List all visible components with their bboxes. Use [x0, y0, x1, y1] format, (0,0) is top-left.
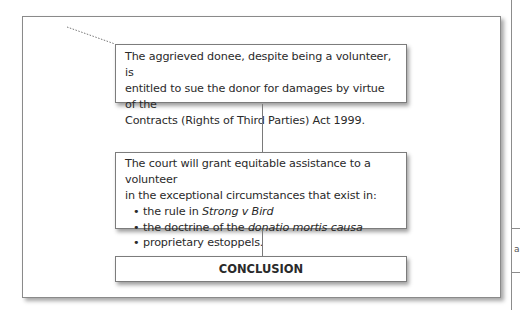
connector-line	[262, 104, 263, 152]
bullet-icon: •	[133, 220, 139, 236]
box-line: The court will grant equitable assistanc…	[125, 156, 398, 188]
case-name: Strong v Bird	[202, 205, 273, 218]
doctrine-name: donatio mortis causa	[248, 221, 363, 234]
flow-box-conclusion: CONCLUSION	[115, 256, 407, 282]
bullet-icon: •	[133, 235, 139, 251]
list-item: • proprietary estoppels.	[133, 235, 398, 251]
flow-box-equitable-assistance: The court will grant equitable assistanc…	[115, 152, 407, 229]
list-item: • the rule in Strong v Bird	[133, 204, 398, 220]
bullet-icon: •	[133, 204, 139, 220]
adjacent-page-edge: a	[511, 0, 520, 310]
box-line: in the exceptional circumstances that ex…	[125, 188, 398, 204]
list-item: • the doctrine of the donatio mortis cau…	[133, 220, 398, 236]
adjacent-rule	[512, 228, 520, 229]
connector-line	[262, 230, 263, 256]
adjacent-rule	[512, 272, 520, 273]
flow-box-contracts-act: The aggrieved donee, despite being a vol…	[115, 44, 407, 103]
adjacent-page-glyph: a	[514, 244, 520, 254]
box-line: The aggrieved donee, despite being a vol…	[125, 49, 398, 81]
